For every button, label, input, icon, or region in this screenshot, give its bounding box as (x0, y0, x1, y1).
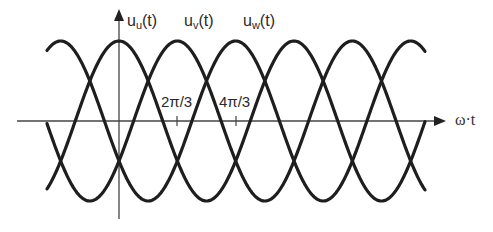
label-uw-sub: w (252, 19, 260, 31)
three-phase-waveform-diagram (0, 0, 493, 232)
x-axis-arrow-icon (434, 116, 446, 126)
label-uu-suffix: (t) (142, 12, 157, 29)
y-axis-arrow-icon (114, 9, 124, 21)
label-uv-base: u (184, 12, 193, 29)
label-uw: uw(t) (243, 13, 275, 33)
label-uw-suffix: (t) (260, 12, 275, 29)
label-uv: uv(t) (184, 13, 214, 33)
label-uu-base: u (127, 12, 136, 29)
tick-label-2pi-3: 2π/3 (161, 94, 192, 109)
label-uu: uu(t) (127, 13, 157, 33)
tick-label-4pi-3: 4π/3 (219, 94, 250, 109)
x-axis-label: ω·t (455, 112, 475, 128)
label-uv-suffix: (t) (198, 12, 213, 29)
label-uw-base: u (243, 12, 252, 29)
